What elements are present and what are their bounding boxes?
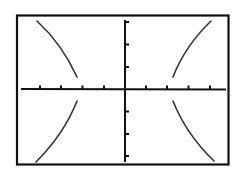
graph-screen (0, 0, 238, 172)
